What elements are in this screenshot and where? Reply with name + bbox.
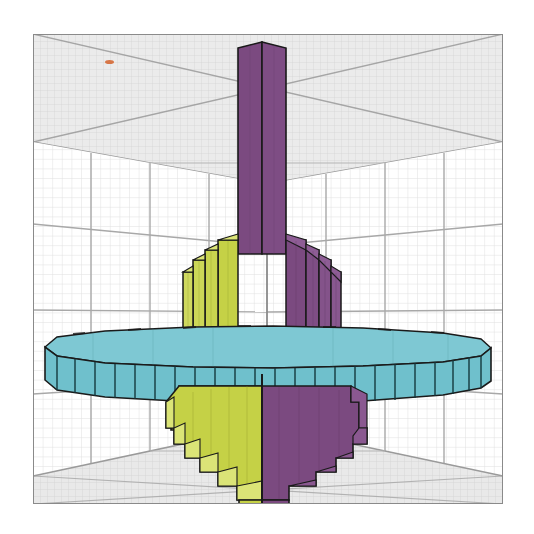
voxel-object [33, 34, 503, 504]
axes-3d-box[interactable] [33, 34, 503, 504]
figure-canvas[interactable] [0, 0, 534, 534]
voxel-lower-cone [166, 374, 367, 504]
orange-marker-dot [105, 60, 114, 64]
voxel-shaft [238, 42, 286, 254]
